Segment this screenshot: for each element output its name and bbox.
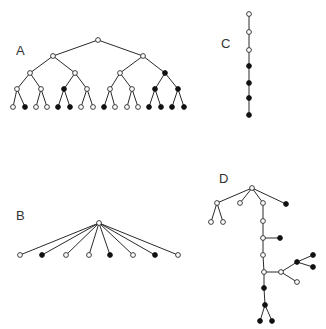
open-node	[250, 186, 255, 191]
filled-node	[176, 87, 181, 92]
open-node	[125, 105, 130, 110]
open-node	[34, 105, 39, 110]
tree-diagram-svg: ABCD	[0, 0, 326, 329]
open-node	[18, 253, 23, 258]
filled-node	[56, 105, 61, 110]
tree-b: B	[16, 208, 180, 257]
open-node	[118, 71, 123, 76]
tree-edge	[30, 56, 53, 73]
filled-node	[23, 105, 28, 110]
tree-edge	[53, 56, 75, 73]
tree-edge	[120, 73, 132, 89]
open-node	[39, 87, 44, 92]
tree-edge	[252, 188, 286, 204]
open-node	[45, 105, 50, 110]
open-node	[215, 201, 220, 206]
open-node	[64, 253, 69, 258]
open-node	[113, 105, 118, 110]
filled-node	[258, 319, 263, 324]
open-node	[261, 201, 266, 206]
filled-node	[263, 303, 268, 308]
filled-node	[68, 105, 73, 110]
tree-edge	[211, 203, 217, 222]
open-node	[261, 253, 266, 258]
open-node	[73, 71, 78, 76]
open-node	[141, 54, 146, 59]
filled-node	[147, 105, 152, 110]
filled-node	[247, 64, 252, 69]
filled-node	[182, 105, 187, 110]
filled-node	[311, 253, 316, 258]
open-node	[247, 12, 252, 17]
tree-label: C	[221, 36, 230, 51]
open-node	[130, 87, 135, 92]
open-node	[96, 38, 101, 43]
open-node	[279, 270, 284, 275]
tree-edge	[217, 203, 223, 222]
open-node	[247, 48, 252, 53]
open-node	[221, 220, 226, 225]
filled-node	[262, 286, 267, 291]
tree-edge	[75, 73, 87, 89]
filled-node	[170, 105, 175, 110]
filled-node	[159, 105, 164, 110]
open-node	[108, 87, 113, 92]
open-node	[262, 270, 267, 275]
filled-node	[278, 236, 283, 241]
tree-edge	[98, 40, 143, 56]
tree-c: C	[221, 12, 251, 118]
open-node	[247, 30, 252, 35]
tree-edge	[20, 223, 99, 255]
open-node	[87, 253, 92, 258]
open-node	[51, 54, 56, 59]
open-node	[136, 105, 141, 110]
tree-edge	[99, 223, 155, 255]
filled-node	[102, 105, 107, 110]
tree-label: D	[219, 171, 228, 186]
tree-edge	[53, 40, 98, 56]
filled-node	[153, 253, 158, 258]
open-node	[131, 253, 136, 258]
filled-node	[270, 319, 275, 324]
open-node	[176, 253, 181, 258]
open-node	[11, 105, 16, 110]
tree-edge	[143, 56, 165, 73]
open-node	[261, 219, 266, 224]
tree-edge	[64, 73, 75, 89]
open-node	[15, 87, 20, 92]
open-node	[85, 87, 90, 92]
filled-node	[247, 96, 252, 101]
filled-node	[62, 87, 67, 92]
tree-edge	[30, 73, 41, 89]
open-node	[28, 71, 33, 76]
open-node	[79, 105, 84, 110]
filled-node	[247, 81, 252, 86]
filled-node	[311, 265, 316, 270]
tree-label: A	[16, 43, 25, 58]
tree-edge	[99, 223, 178, 255]
tree-diagram-figure: ABCD	[0, 0, 326, 329]
open-node	[295, 280, 300, 285]
tree-label: B	[16, 208, 25, 223]
filled-node	[163, 71, 168, 76]
tree-edge	[17, 73, 30, 89]
tree-d: D	[209, 171, 316, 323]
open-node	[91, 105, 96, 110]
tree-edge	[120, 56, 143, 73]
tree-edge	[17, 89, 25, 107]
filled-node	[40, 253, 45, 258]
open-node	[238, 201, 243, 206]
tree-edge	[165, 73, 178, 89]
filled-node	[153, 87, 158, 92]
open-node	[261, 236, 266, 241]
tree-edge	[217, 188, 252, 203]
filled-node	[284, 202, 289, 207]
tree-a: A	[11, 38, 187, 110]
open-node	[209, 220, 214, 225]
open-node	[97, 221, 102, 226]
filled-node	[108, 253, 113, 258]
filled-node	[295, 260, 300, 265]
filled-node	[247, 113, 252, 118]
